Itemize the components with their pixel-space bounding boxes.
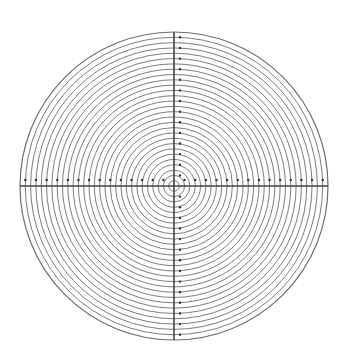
tick-dot	[179, 323, 181, 325]
tick-dot	[35, 179, 37, 181]
tick-dot	[258, 179, 260, 181]
tick-dot	[268, 179, 270, 181]
tick-dot	[300, 179, 302, 181]
reticle-diagram	[0, 0, 343, 364]
tick-dot	[179, 280, 181, 282]
tick-dot	[237, 179, 239, 181]
tick-dot	[179, 302, 181, 304]
tick-dot	[130, 179, 132, 181]
tick-dot	[311, 179, 313, 181]
tick-dot	[179, 47, 181, 49]
tick-dot	[179, 164, 181, 166]
tick-dot	[109, 179, 111, 181]
tick-dot	[179, 174, 181, 176]
tick-dot	[77, 179, 79, 181]
tick-dot	[179, 217, 181, 219]
tick-dot	[179, 57, 181, 59]
tick-dot	[183, 179, 185, 181]
tick-dot	[88, 179, 90, 181]
tick-dot	[141, 179, 143, 181]
tick-dot	[67, 179, 69, 181]
tick-dot	[194, 179, 196, 181]
tick-dot	[179, 312, 181, 314]
tick-dot	[247, 179, 249, 181]
tick-dot	[179, 249, 181, 251]
tick-dot	[290, 179, 292, 181]
tick-dot	[179, 89, 181, 91]
tick-dot	[179, 79, 181, 81]
tick-dot	[179, 111, 181, 113]
tick-dot	[162, 179, 164, 181]
tick-dot	[205, 179, 207, 181]
tick-dot	[179, 142, 181, 144]
tick-dot	[56, 179, 58, 181]
tick-dot	[120, 179, 122, 181]
tick-dot	[152, 179, 154, 181]
tick-dot	[179, 36, 181, 38]
tick-dot	[45, 179, 47, 181]
tick-dot	[322, 179, 324, 181]
tick-dot	[179, 153, 181, 155]
tick-dot	[99, 179, 101, 181]
tick-dot	[179, 291, 181, 293]
tick-dot	[24, 179, 26, 181]
tick-dot	[226, 179, 228, 181]
tick-dot	[215, 179, 217, 181]
tick-dot	[179, 238, 181, 240]
tick-dot	[179, 206, 181, 208]
tick-dot	[179, 100, 181, 102]
tick-dot	[179, 195, 181, 197]
tick-dot	[179, 334, 181, 336]
tick-dot	[179, 270, 181, 272]
tick-dot	[279, 179, 281, 181]
tick-dot	[179, 259, 181, 261]
tick-dot	[179, 227, 181, 229]
tick-dot	[179, 132, 181, 134]
tick-dot	[179, 68, 181, 70]
concentric-circles-graphic	[0, 0, 343, 364]
tick-dot	[179, 121, 181, 123]
